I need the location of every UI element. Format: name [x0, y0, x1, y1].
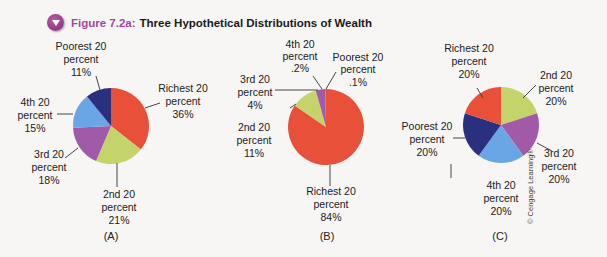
- svg-text:Richest 20: Richest 20: [444, 42, 494, 54]
- svg-text:percent: percent: [31, 161, 66, 173]
- svg-text:84%: 84%: [320, 211, 341, 223]
- copyright-notice: © Cengage Learning®: [526, 149, 535, 224]
- svg-text:18%: 18%: [38, 174, 59, 186]
- svg-text:Poorest 20: Poorest 20: [56, 40, 107, 52]
- svg-text:20%: 20%: [548, 173, 569, 185]
- svg-text:20%: 20%: [458, 68, 479, 80]
- svg-text:.1%: .1%: [349, 76, 367, 88]
- svg-text:percent: percent: [340, 63, 375, 75]
- svg-text:2nd 20: 2nd 20: [238, 121, 270, 133]
- svg-text:21%: 21%: [108, 214, 129, 226]
- caption-b: (B): [320, 230, 335, 242]
- caption-a: (A): [104, 230, 119, 242]
- svg-text:percent: percent: [282, 50, 317, 62]
- svg-text:percent: percent: [451, 55, 486, 67]
- svg-text:36%: 36%: [172, 108, 193, 120]
- svg-text:2nd 20: 2nd 20: [540, 69, 572, 81]
- svg-text:2nd 20: 2nd 20: [103, 188, 135, 200]
- svg-text:4th 20: 4th 20: [20, 96, 49, 108]
- svg-text:percent: percent: [165, 95, 200, 107]
- svg-text:percent: percent: [483, 192, 518, 204]
- svg-text:percent: percent: [63, 53, 98, 65]
- svg-text:4%: 4%: [247, 99, 262, 111]
- pie-chart-b: [288, 89, 364, 165]
- svg-text:Richest 20: Richest 20: [158, 82, 208, 94]
- svg-text:3rd 20: 3rd 20: [240, 73, 270, 85]
- svg-text:.2%: .2%: [291, 62, 309, 74]
- svg-text:Richest 20: Richest 20: [306, 185, 356, 197]
- svg-text:20%: 20%: [545, 95, 566, 107]
- svg-text:percent: percent: [101, 201, 136, 213]
- svg-text:3rd 20: 3rd 20: [34, 148, 64, 160]
- svg-text:15%: 15%: [24, 122, 45, 134]
- svg-text:20%: 20%: [416, 146, 437, 158]
- svg-text:percent: percent: [237, 86, 272, 98]
- svg-text:4th 20: 4th 20: [285, 38, 314, 50]
- svg-text:11%: 11%: [71, 66, 91, 78]
- svg-text:percent: percent: [541, 160, 576, 172]
- svg-text:percent: percent: [236, 134, 271, 146]
- svg-text:20%: 20%: [490, 205, 511, 217]
- caption-c: (C): [492, 230, 507, 242]
- svg-text:percent: percent: [409, 133, 444, 145]
- svg-text:percent: percent: [17, 109, 52, 121]
- pie-chart-a: [73, 88, 149, 164]
- svg-text:percent: percent: [538, 82, 573, 94]
- svg-text:percent: percent: [313, 198, 348, 210]
- svg-text:3rd 20: 3rd 20: [544, 147, 574, 159]
- svg-text:4th 20: 4th 20: [486, 179, 515, 191]
- svg-text:Poorest 20: Poorest 20: [402, 120, 453, 132]
- svg-text:11%: 11%: [244, 147, 264, 159]
- pie-charts: Poorest 20 percent 11% Richest 20 percen…: [0, 0, 607, 257]
- svg-text:Poorest 20: Poorest 20: [333, 51, 384, 63]
